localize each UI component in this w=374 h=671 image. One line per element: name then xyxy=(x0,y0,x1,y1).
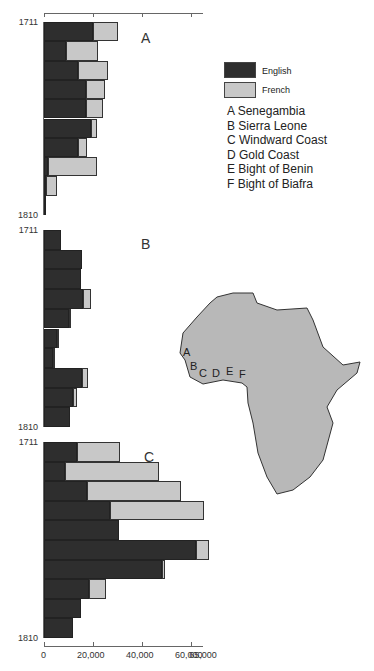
bar-english xyxy=(44,540,196,560)
bar-english xyxy=(44,61,78,80)
region-key-item: F Bight of Biafra xyxy=(227,177,313,191)
map-region-letter: C xyxy=(199,367,207,379)
year-label-end: 1810 xyxy=(8,633,38,643)
year-label-start: 1711 xyxy=(8,437,38,447)
bar-english xyxy=(44,230,61,250)
panel-label: B xyxy=(141,236,150,252)
bar-french xyxy=(82,368,88,388)
year-label-start: 1711 xyxy=(8,225,38,235)
bar-french xyxy=(65,462,159,482)
year-label-start: 1711 xyxy=(8,17,38,27)
bar-french xyxy=(89,579,106,599)
bar-french xyxy=(83,289,90,309)
year-label-end: 1810 xyxy=(8,210,38,220)
map-region-letter: A xyxy=(183,346,190,358)
region-key-item: D Gold Coast xyxy=(227,148,299,162)
bar-english xyxy=(44,348,53,368)
panel-label: A xyxy=(141,30,150,46)
map-region-letter: D xyxy=(212,367,220,379)
bar-english xyxy=(44,579,89,599)
bar-french xyxy=(57,329,59,349)
bar-french xyxy=(48,157,97,176)
bar-english xyxy=(44,388,73,408)
top-axis-tick xyxy=(44,13,45,17)
year-label-end: 1810 xyxy=(8,422,38,432)
axis-tick-label: 65,000 xyxy=(189,650,217,660)
bottom-axis-tick xyxy=(44,642,45,646)
map-region-letter: E xyxy=(226,365,233,377)
top-axis-tick xyxy=(142,13,143,17)
bar-english xyxy=(44,250,82,270)
bar-french xyxy=(86,80,106,99)
bottom-axis-tick xyxy=(93,642,94,646)
bar-english xyxy=(44,269,81,289)
top-axis xyxy=(44,13,203,14)
bar-english xyxy=(44,329,57,349)
bar-english xyxy=(44,138,78,157)
bar-english xyxy=(44,119,91,138)
bar-english xyxy=(44,618,73,638)
bar-french xyxy=(86,99,103,118)
bar-english xyxy=(44,501,110,521)
bar-french xyxy=(162,560,166,580)
bar-english xyxy=(44,560,162,580)
region-key-item: A Senegambia xyxy=(227,104,305,118)
top-axis-tick xyxy=(191,13,192,17)
africa-outline xyxy=(180,293,360,494)
bar-english xyxy=(44,22,93,41)
bar-french xyxy=(91,119,97,138)
bar-english xyxy=(44,481,87,501)
bar-french xyxy=(110,501,204,521)
bar-english xyxy=(44,196,46,215)
region-key-item: B Sierra Leone xyxy=(227,119,307,133)
bar-french xyxy=(69,309,71,329)
axis-tick-label: 0 xyxy=(41,650,46,660)
bar-english xyxy=(44,99,86,118)
bar-french xyxy=(77,442,120,462)
bar-french xyxy=(93,22,118,41)
bar-french xyxy=(53,348,55,368)
bar-french xyxy=(78,61,107,80)
bar-english xyxy=(44,368,82,388)
bottom-axis-tick xyxy=(142,642,143,646)
axis-tick-label: 40,000 xyxy=(126,650,154,660)
map-region-letter: F xyxy=(239,368,246,380)
bottom-axis-tick xyxy=(191,642,192,646)
bar-french xyxy=(196,540,209,560)
bar-english xyxy=(44,599,81,619)
bar-french xyxy=(78,138,87,157)
bar-english xyxy=(44,41,66,60)
region-key-item: C Windward Coast xyxy=(227,133,327,147)
bar-english xyxy=(44,289,83,309)
bar-french xyxy=(73,388,77,408)
bar-english xyxy=(44,309,69,329)
axis-tick-label: 20,000 xyxy=(77,650,105,660)
map-region-letter: B xyxy=(190,360,197,372)
top-axis-tick xyxy=(93,13,94,17)
bar-english xyxy=(44,407,70,427)
bar-french xyxy=(46,176,57,195)
bottom-axis xyxy=(44,646,203,647)
bar-english xyxy=(44,462,65,482)
bar-english xyxy=(44,520,119,540)
bar-french xyxy=(66,41,98,60)
bar-english xyxy=(44,80,86,99)
region-key-item: E Bight of Benin xyxy=(227,162,313,176)
bar-english xyxy=(44,442,77,462)
bar-french xyxy=(87,481,181,501)
